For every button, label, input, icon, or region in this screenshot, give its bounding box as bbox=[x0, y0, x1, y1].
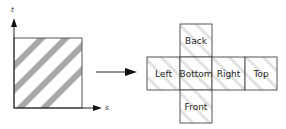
cell-left: Left bbox=[147, 57, 180, 90]
cell-back-label: Back bbox=[185, 36, 208, 46]
mapping-arrow bbox=[96, 68, 137, 76]
s-axis-label: s bbox=[105, 104, 109, 112]
texture-square bbox=[0, 20, 100, 116]
arrow-right-icon bbox=[93, 105, 102, 111]
cell-top: Top bbox=[245, 57, 277, 90]
cell-left-label: Left bbox=[155, 69, 172, 79]
arrow-right-icon bbox=[125, 68, 137, 76]
cube-map-diagram: t s Back Left Bottom Right Top bbox=[0, 0, 286, 129]
t-axis-label: t bbox=[11, 6, 14, 14]
cell-bottom: Bottom bbox=[179, 57, 212, 90]
cell-front: Front bbox=[180, 90, 212, 123]
arrow-up-icon bbox=[11, 18, 17, 27]
cell-bottom-label: Bottom bbox=[179, 69, 212, 79]
cell-front-label: Front bbox=[185, 102, 208, 112]
cell-right: Right bbox=[212, 57, 245, 90]
cube-net: Back Left Bottom Right Top Front bbox=[147, 24, 277, 123]
cell-back: Back bbox=[180, 24, 212, 57]
cell-right-label: Right bbox=[217, 69, 241, 79]
cell-top-label: Top bbox=[252, 69, 268, 79]
